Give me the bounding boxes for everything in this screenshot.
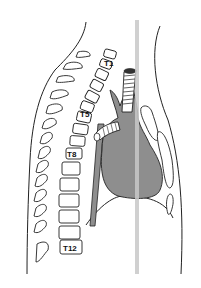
label-t5: T5 xyxy=(80,110,90,119)
thorax-sagittal-drawing: T1 T5 T8 T12 xyxy=(0,0,201,288)
label-t12: T12 xyxy=(63,244,77,253)
reference-line xyxy=(135,20,139,274)
anatomy-diagram: T1 T5 T8 T12 xyxy=(0,0,201,288)
label-t1: T1 xyxy=(104,59,114,68)
diaphragm xyxy=(86,196,173,225)
label-t8: T8 xyxy=(67,150,77,159)
